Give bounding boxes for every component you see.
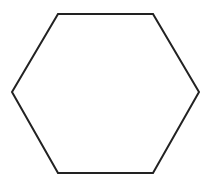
hexagon-shape	[12, 14, 199, 173]
diagram-canvas	[0, 0, 211, 184]
